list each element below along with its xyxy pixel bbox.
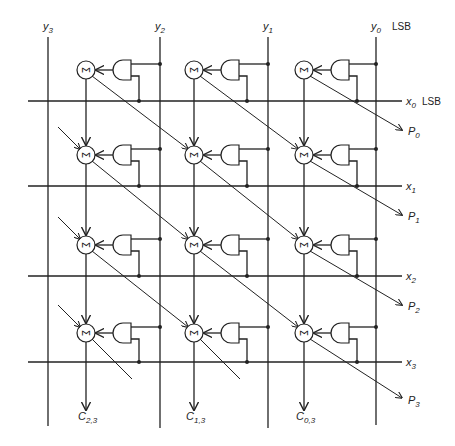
product-label-P3: P3 [408,394,420,409]
sigma-glyph: Σ [298,330,309,336]
junction-dot [137,274,141,278]
junction-dot [137,99,141,103]
junction-dot [245,360,249,364]
junction-dot [158,147,162,151]
carry-label-0: C2,3 [78,410,98,425]
product-wire [310,161,402,215]
junction-dot [245,274,249,278]
multiplier-cell: Σ [77,60,188,149]
and-gate-icon [113,235,131,255]
sigma-glyph: Σ [188,67,199,73]
product-label-P2: P2 [408,300,420,315]
junction-dot [158,325,162,329]
and-gate-icon [331,145,349,165]
sum-stub-wire [92,339,132,379]
and-gate-icon [113,323,131,343]
y-input-label-y2: y2 [154,20,166,35]
junction-dot [266,237,270,241]
product-wire [310,76,402,130]
multiplier-cell: Σ [295,323,402,410]
junction-dot [374,237,378,241]
sum-in-wire [58,305,80,327]
x-tap-wire [131,251,139,276]
junction-dot [137,360,141,364]
y-input-label-y3: y3 [42,20,54,35]
x-tap-wire [239,339,247,362]
junction-dot [158,62,162,66]
junction-dot [158,237,162,241]
x-input-label-x1: x1 [405,180,416,195]
and-gate-icon [113,60,131,80]
sum-wire [200,76,298,149]
sum-in-wire [58,217,80,239]
junction-dot [245,99,249,103]
junction-dot [266,147,270,151]
sigma-glyph: Σ [298,152,309,158]
and-gate-icon [221,60,239,80]
junction-dot [137,184,141,188]
multiplier-cell: Σ [185,60,298,149]
product-wire [310,339,402,398]
x-tap-wire [131,161,139,186]
and-gate-icon [221,235,239,255]
x-tap-wire [349,339,357,362]
x-tap-wire [349,76,357,101]
x-input-label-x3: x3 [405,356,417,371]
array-multiplier-diagram: ΣΣΣΣΣΣΣΣΣΣΣΣ y3y2y1y0LSBx0x1x2x3LSBP0P1P… [0,0,455,446]
multiplier-cell: Σ [295,235,402,323]
sum-stub-wire [200,339,240,379]
y-lsb-label: LSB [392,21,411,32]
multiplier-cell: Σ [58,305,162,410]
sum-wire [200,161,298,239]
x-lsb-label: LSB [422,96,441,107]
multiplier-cell: Σ [295,145,402,235]
junction-dot [374,62,378,66]
junction-dot [355,360,359,364]
sigma-glyph: Σ [188,242,199,248]
carry-label-1: C1,3 [186,410,206,425]
x-tap-wire [131,76,139,101]
y-input-label-y1: y1 [262,20,273,35]
and-gate-icon [331,323,349,343]
product-wire [310,251,402,305]
x-input-label-x0: x0 [405,95,417,110]
sum-in-wire [58,127,80,149]
product-label-P0: P0 [408,125,420,140]
sum-wire [200,251,298,327]
sigma-glyph: Σ [188,152,199,158]
and-gate-icon [221,145,239,165]
x-tap-wire [239,251,247,276]
sum-wire [92,251,188,327]
junction-dot [374,147,378,151]
sum-wire [92,76,188,149]
sigma-glyph: Σ [298,242,309,248]
multiplier-cell: Σ [185,323,270,410]
sum-wire [92,161,188,239]
sigma-glyph: Σ [80,152,91,158]
and-gate-icon [331,60,349,80]
and-gate-icon [221,323,239,343]
sigma-glyph: Σ [80,67,91,73]
x-input-label-x2: x2 [405,270,417,285]
y-input-label-y0: y0 [370,20,382,35]
sigma-glyph: Σ [80,242,91,248]
carry-label-2: C0,3 [296,410,316,425]
sigma-glyph: Σ [80,330,91,336]
x-tap-wire [239,76,247,101]
multiplier-cell: Σ [185,235,298,327]
product-label-P1: P1 [408,210,420,225]
and-gate-icon [113,145,131,165]
multiplier-cell: Σ [185,145,298,239]
junction-dot [266,62,270,66]
junction-dot [374,325,378,329]
sigma-glyph: Σ [298,67,309,73]
and-gate-icon [331,235,349,255]
x-tap-wire [239,161,247,186]
multiplier-cell: Σ [58,127,188,239]
x-tap-wire [131,339,139,362]
multiplier-cell: Σ [295,60,402,145]
junction-dot [266,325,270,329]
junction-dot [245,184,249,188]
x-tap-wire [349,251,357,276]
multiplier-cell: Σ [58,217,188,327]
